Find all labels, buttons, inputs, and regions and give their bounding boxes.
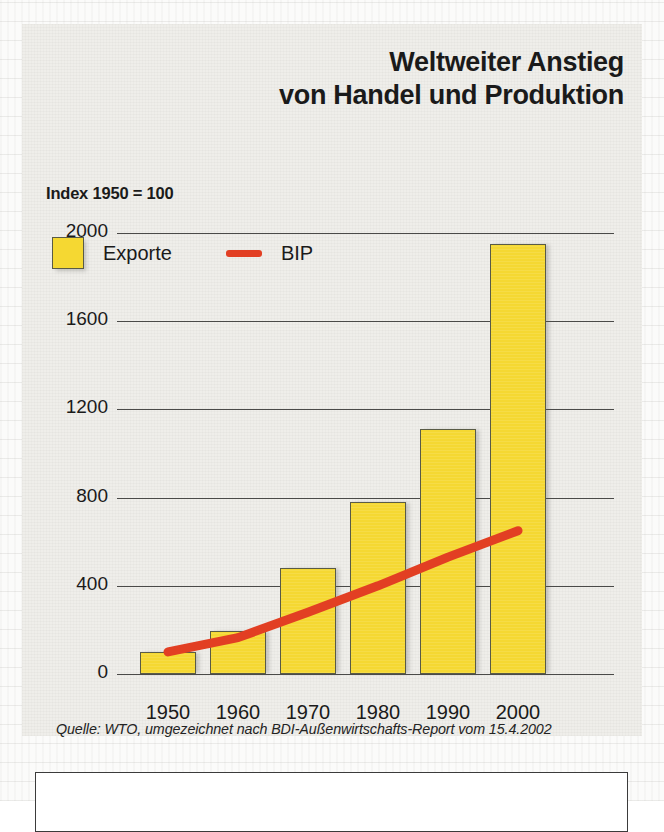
- legend-swatch-gdp: [226, 250, 262, 257]
- chart-figure: Weltweiter Anstieg von Handel und Produk…: [22, 24, 642, 736]
- legend-label-gdp: BIP: [281, 242, 313, 265]
- source-note: Quelle: WTO, umgezeichnet nach BDI-Außen…: [56, 721, 552, 737]
- legend-label-exports: Exporte: [103, 242, 172, 265]
- legend-swatch-exports: [52, 237, 84, 269]
- plot-area: 0400800120016002000 19501960197019801990…: [22, 24, 642, 736]
- bottom-frame-box: [35, 772, 628, 832]
- gdp-line-path: [168, 531, 518, 652]
- gdp-line-chart: [22, 24, 642, 736]
- chart-legend: Exporte BIP: [52, 237, 313, 269]
